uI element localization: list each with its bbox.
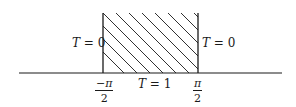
bottom-boundary-value: = 1 bbox=[146, 77, 171, 91]
right-boundary-var: T bbox=[202, 36, 210, 50]
left-boundary-label: T = 0 bbox=[72, 37, 105, 49]
tick-denominator: 2 bbox=[101, 91, 108, 104]
bottom-boundary-var: T bbox=[138, 77, 146, 91]
left-boundary-var: T bbox=[72, 36, 80, 50]
tick-label-pi-over-2: π 2 bbox=[193, 78, 202, 104]
tick-numerator: π bbox=[193, 78, 202, 91]
tick-numerator: −π bbox=[95, 78, 113, 91]
diagram-canvas: T = 0 T = 0 T = 1 −π 2 π 2 bbox=[0, 0, 296, 107]
tick-label-neg-pi-over-2: −π 2 bbox=[95, 78, 113, 104]
bottom-boundary-label: T = 1 bbox=[138, 78, 171, 90]
left-boundary-value: = 0 bbox=[80, 36, 105, 50]
right-boundary-label: T = 0 bbox=[202, 37, 235, 49]
right-boundary-value: = 0 bbox=[210, 36, 235, 50]
tick-denominator: 2 bbox=[194, 91, 201, 104]
